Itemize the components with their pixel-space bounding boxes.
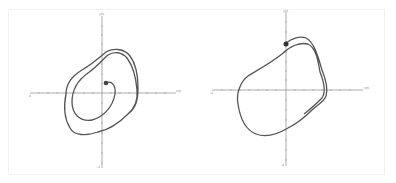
- right-y-min-label: -4: [281, 163, 284, 167]
- right-trajectory-curve: [237, 37, 326, 135]
- left-start-point-marker: [104, 81, 109, 86]
- left-y-min-label: -4: [97, 165, 100, 169]
- left-trajectory-curve: [65, 49, 138, 134]
- left-y-axis-label: y(t): [99, 12, 104, 16]
- left-phase-plot: y(t) x(t) -4 -4: [28, 12, 181, 169]
- right-x-min-label: -4: [210, 91, 213, 95]
- right-phase-plot: y(t) x(t) -4 -4: [210, 9, 369, 167]
- left-x-min-label: -4: [28, 94, 31, 98]
- right-x-axis-label: x(t): [364, 86, 369, 90]
- left-x-axis-label: x(t): [176, 89, 181, 93]
- figure-canvas: y(t) x(t) -4 -4 y(t) x(t) -4 -4: [0, 0, 396, 183]
- right-y-axis-label: y(t): [283, 9, 288, 13]
- right-start-point-marker: [284, 42, 289, 47]
